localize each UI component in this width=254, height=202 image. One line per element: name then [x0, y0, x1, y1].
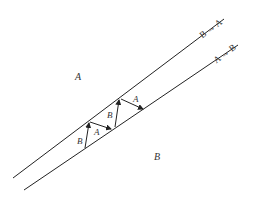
arrow-b-2	[115, 100, 119, 127]
arrow-a-1-label: A	[93, 127, 100, 137]
lower-boundary-line	[24, 45, 238, 190]
diagram-svg: B → A A → B A B B A B A	[0, 0, 254, 202]
arrow-b-2-label: B	[107, 110, 113, 120]
diagram-canvas: B → A A → B A B B A B A	[0, 0, 254, 202]
upper-boundary-line	[13, 19, 224, 178]
arrow-a-2	[121, 99, 143, 109]
upper-boundary-label: B → A	[197, 17, 224, 41]
arrow-b-1	[85, 123, 89, 148]
arrow-b-1-label: B	[77, 136, 83, 146]
region-a-label: A	[74, 71, 82, 82]
lower-boundary-label: A → B	[211, 42, 237, 65]
arrow-a-2-label: A	[132, 94, 139, 104]
region-b-label: B	[154, 151, 160, 162]
